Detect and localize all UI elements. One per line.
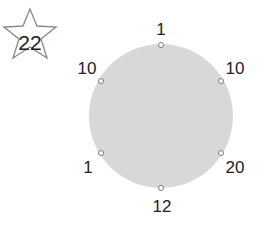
node-top[interactable] xyxy=(159,43,164,48)
node-label-lower-right: 20 xyxy=(226,159,245,176)
node-label-upper-right: 10 xyxy=(226,60,245,77)
node-bottom[interactable] xyxy=(159,186,164,191)
node-label-top: 1 xyxy=(156,21,165,38)
node-label-upper-left: 10 xyxy=(78,60,97,77)
node-lower-left[interactable] xyxy=(99,151,104,156)
star-badge-value: 22 xyxy=(18,32,41,53)
node-upper-right[interactable] xyxy=(219,79,224,84)
node-label-lower-left: 1 xyxy=(83,159,92,176)
node-lower-right[interactable] xyxy=(219,151,224,156)
puzzle-circle xyxy=(89,44,233,188)
node-label-bottom: 12 xyxy=(153,198,172,215)
node-upper-left[interactable] xyxy=(99,79,104,84)
